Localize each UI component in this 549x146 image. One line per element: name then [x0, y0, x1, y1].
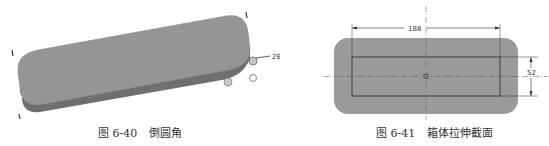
figure-title: 倒圆角	[149, 127, 182, 140]
figure-extrusion-section: 188 52 图 6-41箱体拉伸截面	[280, 0, 549, 146]
figure-caption: 图 6-40倒圆角	[98, 124, 182, 140]
figure-number: 图 6-41	[376, 127, 415, 140]
fillet-drag-handle[interactable]	[249, 57, 257, 65]
arrow-icon	[530, 91, 533, 96]
corner-tick-mark	[246, 12, 247, 18]
width-dimension-value[interactable]: 188	[408, 25, 421, 33]
figure-fillet: 26 图 6-40倒圆角	[0, 0, 280, 146]
section-sketch: 188 52	[280, 0, 549, 120]
height-dimension-value[interactable]: 52	[527, 69, 536, 77]
fillet-anchor-icon	[250, 75, 257, 82]
fillet-drag-handle[interactable]	[224, 78, 232, 86]
arrow-icon	[352, 27, 357, 30]
figure-title: 箱体拉伸截面	[427, 127, 493, 140]
figure-number: 图 6-40	[98, 127, 137, 140]
corner-tick-mark	[19, 114, 20, 119]
arrow-icon	[530, 57, 533, 62]
arrow-icon	[495, 27, 500, 30]
fillet-3d-drawing: 26	[0, 0, 280, 120]
radius-value: 26	[272, 53, 280, 61]
corner-tick-mark	[12, 50, 13, 56]
radius-leader-line	[256, 56, 270, 58]
figure-caption: 图 6-41箱体拉伸截面	[376, 124, 493, 140]
